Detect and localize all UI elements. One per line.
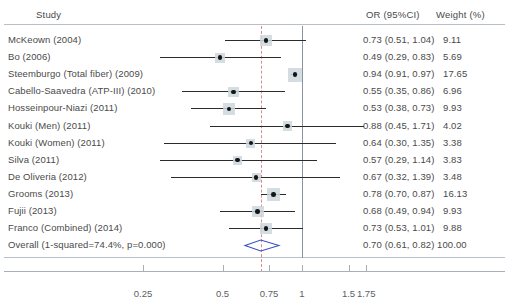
study-or-value: 0.64 (0.30, 1.35) (363, 137, 434, 148)
overall-diamond (243, 239, 281, 252)
forest-plot: Study OR (95%CI) Weight (%) McKeown (200… (0, 0, 509, 308)
overall-label: Overall (1-squared=74.4%, p=0.000) (8, 239, 166, 250)
point-estimate-marker (231, 90, 236, 95)
point-estimate-marker (254, 175, 259, 180)
overall-or-value: 0.70 (0.61, 0.82) (363, 239, 434, 250)
study-label: Steemburgo (Total fiber) (2009) (8, 68, 143, 79)
study-or-value: 0.73 (0.53, 1.01) (363, 222, 434, 233)
axis-tick-label: 1.5 (342, 288, 355, 299)
axis-tick-label: 0.25 (134, 288, 153, 299)
axis-tick (223, 265, 224, 272)
study-label: Hosseinpour-Niazi (2011) (8, 102, 117, 113)
x-axis-line (4, 271, 505, 272)
study-or-value: 0.78 (0.70, 0.87) (363, 188, 434, 199)
study-weight-value: 3.83 (443, 154, 462, 165)
study-or-value: 0.67 (0.32, 1.39) (363, 171, 434, 182)
study-label: Fujii (2013) (8, 205, 57, 216)
point-estimate-marker (255, 209, 260, 214)
study-weight-value: 16.13 (443, 188, 467, 199)
study-weight-value: 9.93 (443, 102, 462, 113)
study-weight-value: 9.88 (443, 222, 462, 233)
point-estimate-marker (271, 192, 276, 197)
column-header-weight: Weight (%) (436, 9, 485, 20)
study-or-value: 0.53 (0.38, 0.73) (363, 102, 434, 113)
axis-tick-label: 0.75 (260, 288, 279, 299)
axis-tick (302, 265, 303, 272)
study-weight-value: 4.02 (443, 120, 462, 131)
point-estimate-marker (285, 124, 290, 129)
study-weight-value: 9.11 (443, 34, 461, 45)
pooled-reference-line (261, 26, 262, 272)
overall-weight-value: 100.00 (437, 239, 467, 250)
point-estimate-marker (264, 226, 269, 231)
study-or-value: 0.68 (0.49, 0.94) (363, 205, 434, 216)
axis-tick-label: 0.5 (216, 288, 229, 299)
study-weight-value: 3.48 (443, 171, 462, 182)
axis-tick-label: 1 (299, 288, 304, 299)
axis-tick-label: 1.75 (357, 288, 376, 299)
axis-tick (366, 265, 367, 272)
study-label: De Oliveria (2012) (8, 171, 87, 182)
study-or-value: 0.94 (0.91, 0.97) (363, 68, 434, 79)
study-weight-value: 3.38 (443, 137, 462, 148)
study-weight-value: 9.93 (443, 205, 462, 216)
study-label: Silva (2011) (8, 154, 59, 165)
footer-divider (4, 257, 505, 258)
column-header-or: OR (95%CI) (366, 9, 420, 20)
point-estimate-marker (293, 72, 298, 77)
study-or-value: 0.57 (0.29, 1.14) (363, 154, 434, 165)
axis-tick (269, 265, 270, 272)
study-weight-value: 5.69 (443, 51, 462, 62)
header-divider (4, 24, 505, 25)
study-label: Grooms (2013) (8, 188, 73, 199)
study-label: Cabello-Saavedra (ATP-III) (2010) (8, 85, 155, 96)
study-or-value: 0.88 (0.45, 1.71) (363, 120, 434, 131)
study-label: Franco (Combined) (2014) (8, 222, 122, 233)
study-label: Bo (2006) (8, 51, 51, 62)
column-header-study: Study (36, 9, 61, 20)
study-weight-value: 17.65 (443, 68, 467, 79)
study-label: Kouki (Women) (2011) (8, 137, 105, 148)
study-or-value: 0.55 (0.35, 0.86) (363, 85, 434, 96)
point-estimate-marker (264, 38, 269, 43)
study-label: McKeown (2004) (8, 34, 81, 45)
study-weight-value: 6.96 (443, 85, 462, 96)
study-or-value: 0.73 (0.51, 1.04) (363, 34, 434, 45)
study-or-value: 0.49 (0.29, 0.83) (363, 51, 434, 62)
axis-tick (349, 265, 350, 272)
axis-tick (143, 265, 144, 272)
study-label: Kouki (Men) (2011) (8, 120, 90, 131)
